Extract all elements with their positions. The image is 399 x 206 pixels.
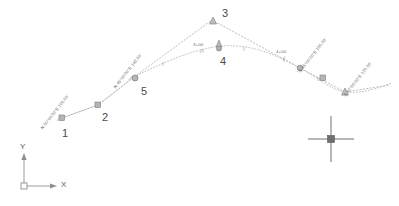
square-point-markers[interactable]	[59, 75, 326, 121]
circle-point-markers[interactable]	[132, 65, 303, 81]
triangle-pi-markers[interactable]	[210, 17, 349, 95]
pi-tangent-polyline	[62, 20, 390, 118]
station-tick-marks	[163, 47, 318, 81]
crosshair-cursor-geometry	[308, 116, 354, 162]
point-number-1: 1	[62, 128, 68, 139]
station-label-3-00: 3+00	[193, 43, 203, 47]
bearing-leader-ticks	[57, 68, 345, 121]
point-number-2: 2	[102, 112, 108, 123]
point-number-3: 3	[222, 8, 228, 19]
point-number-4: 4	[220, 56, 226, 67]
station-label-4-00: 4+00	[276, 50, 286, 54]
ucs-icon-geometry	[21, 153, 57, 189]
ucs-x-axis-label: X	[61, 181, 66, 189]
ucs-y-axis-label: Y	[20, 143, 25, 151]
alignment-centerline	[62, 46, 392, 118]
pi-marker-point-4[interactable]	[216, 40, 222, 51]
cad-drawing-viewport[interactable]: 1 2 3 4 5 3+00 4+00 N 00°00'00"E 100.00'…	[0, 0, 399, 206]
point-number-5: 5	[141, 86, 147, 97]
